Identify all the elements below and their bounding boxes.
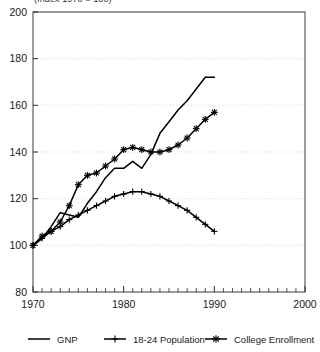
legend-label: 18-24 Population [133, 334, 205, 345]
y-tick-label: 160 [9, 99, 27, 111]
y-tick-label: 140 [9, 146, 27, 158]
y-axis-ticks [33, 12, 38, 292]
y-tick-label: 80 [15, 286, 27, 298]
y-tick-label: 180 [9, 52, 27, 64]
legend-item-gnp[interactable]: GNP [28, 334, 78, 345]
gridlines [33, 12, 305, 245]
y-axis-tick-labels: 20018016014012010080 [9, 6, 27, 298]
y-tick-label: 200 [9, 6, 27, 18]
legend-item-college-enrollment[interactable]: College Enrollment [205, 334, 315, 345]
series-18-24-population [30, 189, 218, 249]
chart-legend: GNP18-24 PopulationCollege Enrollment [28, 334, 315, 345]
x-axis-ticks [33, 286, 305, 292]
chart-plot-area: 20018016014012010080 1970198019902000 GN… [0, 0, 320, 352]
chart-container: (Index 1970 = 100) 20018016014012010080 … [0, 0, 320, 352]
legend-label: College Enrollment [234, 334, 315, 345]
x-tick-label: 1990 [203, 298, 227, 310]
x-tick-label: 2000 [293, 298, 317, 310]
y-tick-label: 120 [9, 192, 27, 204]
x-tick-label: 1970 [21, 298, 45, 310]
data-series-layer [30, 77, 218, 248]
x-axis-tick-labels: 1970198019902000 [21, 298, 317, 310]
legend-label: GNP [57, 334, 78, 345]
y-tick-label: 100 [9, 239, 27, 251]
x-tick-label: 1980 [112, 298, 136, 310]
legend-item-18-24-population[interactable]: 18-24 Population [104, 334, 205, 345]
